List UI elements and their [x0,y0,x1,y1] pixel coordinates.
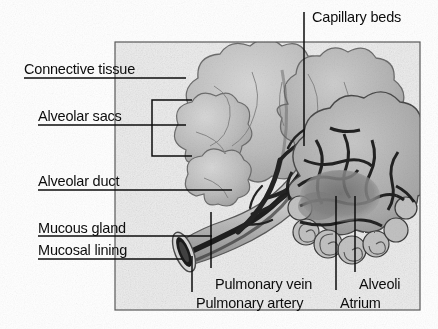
label-connective-tissue: Connective tissue [24,62,135,77]
label-atrium: Atrium [340,296,381,311]
label-pulmonary-vein: Pulmonary vein [215,277,312,292]
label-pulmonary-artery: Pulmonary artery [196,296,303,311]
diagram-stage: Capillary beds Connective tissue Alveola… [0,0,438,329]
label-alveolar-sacs: Alveolar sacs [38,109,122,124]
label-capillary-beds: Capillary beds [312,10,401,25]
label-mucosal-lining: Mucosal lining [38,243,127,258]
label-mucous-gland: Mucous gland [38,221,126,236]
label-alveoli: Alveoli [359,277,400,292]
label-alveolar-duct: Alveolar duct [38,174,119,189]
